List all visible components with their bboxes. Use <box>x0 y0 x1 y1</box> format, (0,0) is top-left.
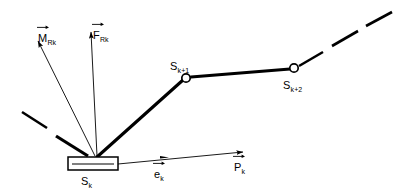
label-joint-k-plus-2: Sk+2 <box>283 76 302 92</box>
label-position-vector: P k <box>234 158 245 174</box>
joint-node-k-plus-1 <box>182 74 190 82</box>
label-moment-subscript: Rk <box>47 39 56 46</box>
label-joint1-symbol: S <box>170 60 178 72</box>
kinematic-chain-diagram: M Rk F Rk Sk+1 Sk+2 Sk e k P <box>0 0 407 191</box>
label-position-subscript: k <box>242 168 246 175</box>
force-vector-arrow <box>91 32 97 156</box>
label-moment-vector: M Rk <box>38 29 56 45</box>
label-base-symbol: S <box>81 175 89 187</box>
base-block <box>68 157 118 170</box>
label-unit-vector: e k <box>154 165 164 181</box>
label-force-subscript: Rk <box>100 36 109 43</box>
label-position-symbol: P <box>234 161 242 173</box>
position-vector-axis <box>118 152 243 164</box>
label-joint2-symbol: S <box>283 79 291 91</box>
label-moment-symbol: M <box>38 32 47 44</box>
label-joint-k-plus-1: Sk+1 <box>170 57 189 73</box>
label-unit-subscript: k <box>160 175 164 182</box>
link-joint1-to-joint2 <box>191 69 290 77</box>
link-base-to-joint1 <box>97 80 183 157</box>
label-force-vector: F Rk <box>93 26 109 42</box>
diagram-canvas <box>0 0 407 191</box>
label-joint2-subscript: k+2 <box>291 86 303 93</box>
unit-vector-arrowhead <box>160 156 169 158</box>
label-base-segment: Sk <box>81 172 92 188</box>
label-base-subscript: k <box>89 182 93 189</box>
dashed-continuation-left <box>22 112 88 156</box>
dashed-continuation-right <box>299 12 392 66</box>
joint-node-k-plus-2 <box>290 64 298 72</box>
label-joint1-subscript: k+1 <box>178 67 190 74</box>
moment-vector-arrow <box>38 41 95 156</box>
label-force-symbol: F <box>93 29 100 41</box>
